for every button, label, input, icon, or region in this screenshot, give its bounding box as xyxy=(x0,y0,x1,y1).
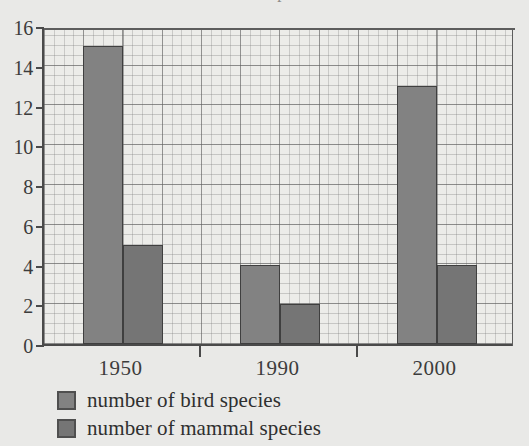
bar-chart xyxy=(42,28,513,346)
y-axis-label: 6 xyxy=(23,215,33,238)
y-axis-label: 8 xyxy=(23,176,33,199)
y-axis-tick xyxy=(36,226,44,228)
bar-2000-mammal xyxy=(437,265,477,345)
legend-item-mammal: number of mammal species xyxy=(57,414,517,442)
y-axis: 0246810121416 xyxy=(0,28,42,346)
bar-1990-mammal xyxy=(280,304,320,344)
y-axis-label: 4 xyxy=(23,255,33,278)
bar-1990-bird xyxy=(240,265,280,345)
y-axis-tick xyxy=(36,266,44,268)
chart-legend: number of bird speciesnumber of mammal s… xyxy=(57,386,517,442)
y-axis-tick xyxy=(36,67,44,69)
x-axis-label-1990: 1990 xyxy=(256,356,300,381)
x-axis-label-2000: 2000 xyxy=(413,356,457,381)
bar-1950-mammal xyxy=(123,245,163,344)
y-axis-tick xyxy=(36,27,44,29)
y-axis-label: 14 xyxy=(14,56,33,79)
legend-item-bird: number of bird species xyxy=(57,386,517,414)
legend-label: number of mammal species xyxy=(87,416,321,441)
bar-2000-bird xyxy=(397,86,437,344)
y-axis-tick xyxy=(36,107,44,109)
x-axis-labels: 195019902000 xyxy=(42,356,513,386)
y-axis-tick xyxy=(36,305,44,307)
legend-swatch-icon xyxy=(57,419,76,438)
y-axis-label: 16 xyxy=(14,17,33,40)
y-axis-label: 2 xyxy=(23,295,33,318)
bars-layer xyxy=(44,26,515,344)
cropped-caption-text: shows the number of bird and mammal spec… xyxy=(0,0,529,11)
bar-1950-bird xyxy=(83,46,123,344)
y-axis-tick xyxy=(36,186,44,188)
legend-label: number of bird species xyxy=(87,388,281,413)
y-axis-label: 0 xyxy=(23,335,33,358)
chart-page: shows the number of bird and mammal spec… xyxy=(0,0,529,446)
legend-swatch-icon xyxy=(57,391,76,410)
y-axis-label: 12 xyxy=(14,96,33,119)
y-axis-tick xyxy=(36,146,44,148)
plot-area xyxy=(42,28,513,346)
y-axis-label: 10 xyxy=(14,136,33,159)
x-axis-label-1950: 1950 xyxy=(99,356,143,381)
